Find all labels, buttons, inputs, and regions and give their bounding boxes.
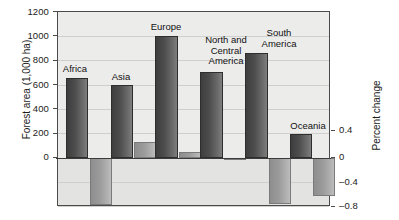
gridline-400 [58, 109, 329, 110]
category-label-south-america: South America [248, 28, 310, 49]
y-axis-left-tick-200: 200 [3, 128, 49, 138]
y-axis-left-tick-400: 400 [3, 104, 49, 114]
gridline-600 [58, 85, 329, 86]
bar-forest-area-south-america [245, 53, 268, 158]
y-axis-left-tick-800: 800 [3, 55, 49, 65]
y-axis-right-tickmark [331, 206, 335, 207]
chart-figure: Forest area (1,000 ha) 1200 1000 800 600… [0, 0, 399, 220]
bar-percent-change-asia [134, 142, 156, 158]
y-axis-right-title: Percent change [371, 41, 382, 191]
category-label-europe: Europe [133, 22, 199, 33]
bar-forest-area-north-and-central-america [200, 72, 223, 158]
bar-forest-area-oceania [290, 134, 312, 158]
bar-percent-change-south-america [269, 158, 291, 204]
bar-forest-area-africa [66, 78, 88, 158]
y-axis-left-tick-1200: 1200 [3, 7, 49, 17]
gridline-n08 [58, 206, 329, 207]
y-axis-left-tick-0: 0 [3, 152, 49, 162]
zero-baseline [56, 158, 331, 159]
bar-forest-area-asia [111, 85, 133, 158]
category-label-asia: Asia [96, 72, 146, 83]
bar-forest-area-europe [155, 36, 178, 158]
y-axis-left-tick-600: 600 [3, 80, 49, 90]
y-axis-right-tick-04: 0.4 [339, 125, 369, 135]
y-axis-left-tick-1000: 1000 [3, 31, 49, 41]
bar-percent-change-africa [90, 158, 112, 205]
category-label-oceania: Oceania [279, 121, 337, 132]
bar-percent-change-oceania [313, 158, 335, 196]
y-axis-right-tick-n04: –0.4 [339, 177, 369, 187]
gridline-200 [58, 133, 329, 134]
y-axis-right-tick-n08: –0.8 [339, 201, 369, 211]
y-axis-right-tick-0: 0 [339, 152, 369, 162]
